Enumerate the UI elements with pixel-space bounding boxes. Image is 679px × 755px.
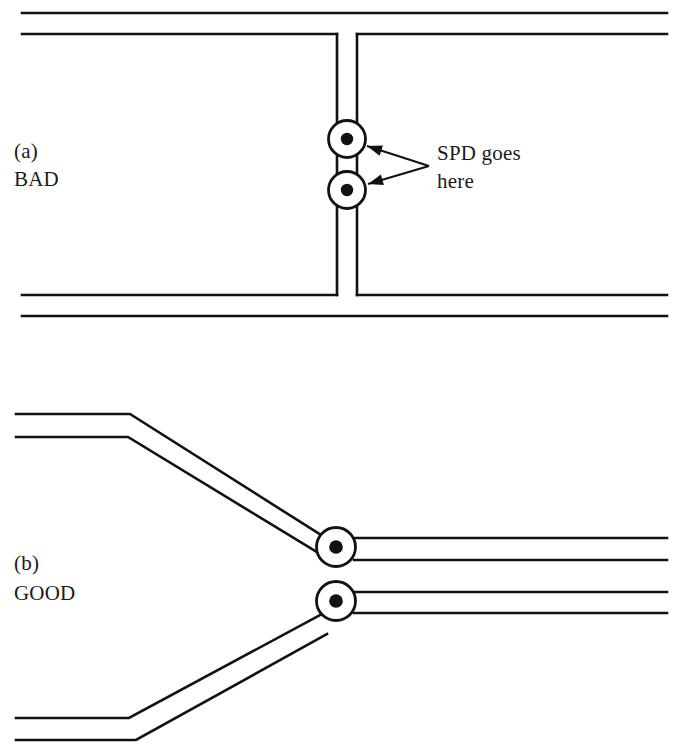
annotation-leader-group bbox=[367, 145, 429, 184]
spd-node-a-upper bbox=[329, 121, 366, 158]
spd-node-a-upper-dot bbox=[341, 133, 353, 145]
panel-b-verdict-label: GOOD bbox=[14, 581, 75, 605]
annotation-arrow-1 bbox=[367, 145, 429, 166]
panel-a-wire-group bbox=[22, 13, 667, 316]
panel-a-tag: (a) bbox=[14, 139, 38, 163]
lower-pair-inner bbox=[16, 614, 322, 718]
annotation-text-line-1: SPD goes bbox=[437, 141, 521, 165]
panel-a-verdict-label: BAD bbox=[14, 167, 59, 191]
spd-node-b-lower-dot bbox=[329, 594, 343, 608]
panel-b-tag: (b) bbox=[14, 551, 39, 575]
spd-node-a-lower-dot bbox=[341, 184, 353, 196]
annotation-text-line-2: here bbox=[437, 169, 474, 193]
annotation-arrow-2 bbox=[368, 166, 429, 185]
spd-node-group bbox=[317, 121, 366, 621]
annotation-arrow-1-head bbox=[367, 145, 383, 155]
figure-canvas: (a) BAD (b) GOOD SPD goes here bbox=[0, 0, 679, 755]
upper-pair-outer bbox=[16, 414, 321, 535]
annotation-arrow-2-head bbox=[368, 175, 384, 185]
upper-pair-inner bbox=[16, 437, 325, 557]
spd-node-b-upper bbox=[317, 528, 356, 567]
figure-root: (a) BAD (b) GOOD SPD goes here bbox=[0, 0, 679, 755]
spd-node-b-lower bbox=[317, 582, 356, 621]
lower-pair-outer bbox=[16, 634, 327, 740]
spd-node-a-lower bbox=[329, 172, 366, 209]
panel-b-wire-group bbox=[16, 414, 667, 740]
spd-node-b-upper-dot bbox=[329, 540, 343, 554]
